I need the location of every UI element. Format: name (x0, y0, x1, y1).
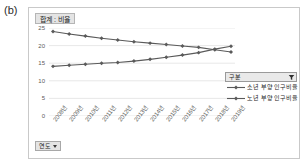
data-point-marker[interactable] (197, 51, 201, 55)
data-point-marker[interactable] (67, 63, 71, 67)
figure-panel: (b) 합계 : 비율 0510152025 2008년2009년2010년20… (0, 0, 306, 168)
data-point-marker[interactable] (100, 61, 104, 65)
data-point-marker[interactable] (51, 30, 55, 34)
data-point-marker[interactable] (83, 34, 87, 38)
data-point-marker[interactable] (132, 59, 136, 63)
y-axis-tick-label: 10 (31, 78, 45, 84)
dimension-chip[interactable]: 연도 (35, 141, 61, 151)
chart-container: 합계 : 비율 0510152025 2008년2009년2010년2011년2… (28, 7, 300, 159)
gridlines (49, 28, 235, 116)
data-point-marker[interactable] (164, 55, 168, 59)
legend-header-label: 구분 (229, 74, 241, 80)
data-point-marker[interactable] (116, 38, 120, 42)
data-point-marker[interactable] (51, 64, 55, 68)
legend-panel: 구분 소년 부양 인구비율노년 부양 인구비율 (225, 72, 297, 104)
legend-marker-icon (227, 84, 245, 91)
legend-items: 소년 부양 인구비율노년 부양 인구비율 (225, 82, 297, 104)
data-point-marker[interactable] (197, 45, 201, 49)
data-point-marker[interactable] (116, 61, 120, 65)
data-point-marker[interactable] (229, 50, 233, 54)
legend-item-label: 소년 부양 인구비율 (247, 84, 298, 91)
legend-item[interactable]: 소년 부양 인구비율 (225, 82, 297, 93)
legend-marker-icon (227, 95, 245, 102)
filter-icon[interactable] (288, 74, 295, 81)
line-chart-svg (49, 28, 235, 116)
series-layer (51, 30, 233, 69)
y-axis-tick-label: 5 (31, 95, 45, 101)
y-axis-tick-label: 0 (31, 113, 45, 119)
data-point-marker[interactable] (180, 53, 184, 57)
plot-area (49, 28, 235, 116)
dimension-chip-label: 연도 (39, 142, 51, 150)
legend-header[interactable]: 구분 (225, 72, 297, 82)
y-axis-tick-label: 25 (31, 25, 45, 31)
data-point-marker[interactable] (148, 41, 152, 45)
data-point-marker[interactable] (132, 40, 136, 44)
y-axis-tick-label: 15 (31, 60, 45, 66)
y-axis-tick-label: 20 (31, 43, 45, 49)
legend-item-label: 노년 부양 인구비율 (247, 95, 298, 102)
data-point-marker[interactable] (100, 36, 104, 40)
figure-caption: (b) (4, 4, 17, 16)
data-point-marker[interactable] (67, 32, 71, 36)
series-line (53, 32, 231, 52)
measure-title-chip[interactable]: 합계 : 비율 (35, 13, 75, 24)
chevron-down-icon[interactable] (53, 145, 57, 148)
data-point-marker[interactable] (229, 44, 233, 48)
legend-item[interactable]: 노년 부양 인구비율 (225, 93, 297, 104)
data-point-marker[interactable] (148, 57, 152, 61)
data-point-marker[interactable] (180, 44, 184, 48)
